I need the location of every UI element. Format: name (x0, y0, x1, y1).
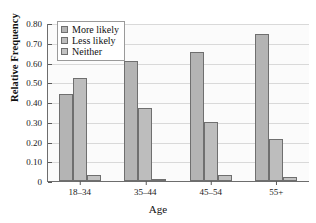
y-axis-tick-label: 0 (38, 177, 49, 187)
legend-swatch-icon (61, 48, 68, 55)
bar[interactable] (218, 175, 232, 181)
legend-item-label: Neither (72, 46, 102, 57)
x-axis-tick-label: 55+ (269, 187, 283, 197)
y-axis-tick-label: 0.50 (26, 78, 48, 88)
y-axis-tick-label: 0.20 (26, 138, 48, 148)
legend-item[interactable]: More likely (61, 24, 119, 35)
legend-swatch-icon (61, 26, 68, 33)
chart-title (0, 0, 316, 9)
legend-swatch-icon (61, 37, 68, 44)
chart-legend: More likelyLess likelyNeither (57, 21, 125, 61)
bar-group (190, 24, 232, 181)
x-axis-tick-label: 18–34 (69, 187, 92, 197)
bar-group (255, 24, 297, 181)
y-axis-tick-label: 0.30 (26, 118, 48, 128)
bar[interactable] (138, 108, 152, 181)
bar-group (124, 24, 166, 181)
bar[interactable] (87, 175, 101, 181)
bar[interactable] (59, 94, 73, 181)
bar[interactable] (152, 179, 166, 181)
bar[interactable] (269, 139, 283, 181)
y-axis-label: Relative Frequency (9, 0, 20, 128)
legend-item[interactable]: Less likely (61, 35, 119, 46)
bar[interactable] (124, 61, 138, 181)
bar[interactable] (255, 34, 269, 181)
bar[interactable] (190, 52, 204, 181)
x-axis-label: Age (0, 203, 316, 215)
y-axis-tick-label: 0.40 (26, 98, 48, 108)
y-axis-tick-label: 0.70 (26, 39, 48, 49)
bar[interactable] (204, 122, 218, 181)
legend-item[interactable]: Neither (61, 46, 119, 57)
bar-chart: Relative Frequency Age 00.100.200.300.40… (0, 0, 316, 223)
legend-item-label: More likely (72, 24, 119, 35)
legend-item-label: Less likely (72, 35, 116, 46)
bar[interactable] (73, 78, 87, 181)
x-axis-tick-label: 45–54 (200, 187, 223, 197)
y-axis-tick-label: 0.80 (26, 19, 48, 29)
y-axis-tick-label: 0.10 (26, 157, 48, 167)
y-axis-tick-label: 0.60 (26, 59, 48, 69)
bar[interactable] (283, 177, 297, 181)
x-axis-tick-label: 35–44 (134, 187, 157, 197)
